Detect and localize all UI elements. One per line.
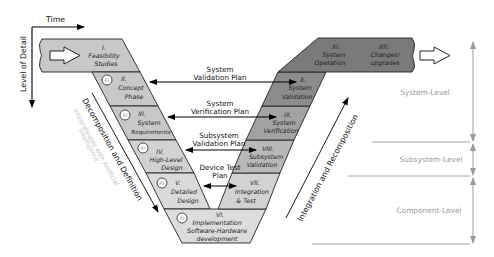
svg-text:System: System [272, 119, 295, 127]
v-model-diagram: Time Level of Detail I. Feasibility Stud… [0, 0, 494, 257]
svg-text:development: development [197, 235, 238, 243]
svg-text:AI: AI [141, 145, 146, 151]
svg-text:Validation: Validation [282, 93, 313, 100]
svg-text:XI.: XI. [331, 43, 340, 50]
svg-text:Feasibility: Feasibility [88, 52, 120, 60]
phase-5-detailed-design: AI V. Detailed Design [146, 173, 210, 209]
svg-text:Design: Design [177, 197, 198, 205]
svg-text:Design: Design [161, 164, 182, 172]
svg-text:Requirements: Requirements [131, 129, 170, 136]
svg-text:IX.: IX. [284, 111, 292, 118]
component-level-label: Component-Level [396, 206, 461, 215]
svg-text:VI.: VI. [216, 211, 224, 218]
phase-6-implementation: AI VI. Implementation Software-Hardware … [164, 209, 266, 243]
subsystem-level-label: Subsystem-Level [400, 155, 463, 164]
svg-text:Integration: Integration [235, 188, 269, 196]
svg-text:X.: X. [299, 76, 306, 83]
phase-1-feasibility: I. Feasibility Studies [39, 39, 140, 72]
svg-text:VII.: VII. [250, 179, 260, 186]
svg-text:System: System [288, 84, 311, 92]
svg-text:Verification: Verification [264, 127, 299, 134]
integration-label: Integration and Recomposition [296, 113, 360, 223]
svg-text:II.: II. [121, 75, 127, 82]
svg-text:Validation: Validation [247, 161, 278, 168]
svg-text:V.: V. [175, 179, 181, 186]
svg-text:Plan: Plan [212, 171, 227, 180]
level-of-detail-axis: Level of Detail [19, 27, 32, 107]
phase-3-system-requirements: AI III. System Requirements [110, 106, 176, 140]
svg-text:Validation Plan: Validation Plan [193, 73, 246, 82]
svg-text:VIII.: VIII. [262, 145, 274, 152]
level-of-detail-label: Level of Detail [19, 36, 28, 92]
svg-text:& Test: & Test [236, 197, 256, 204]
phase-4-high-level-design: AI IV. High-Level Design [128, 140, 194, 173]
svg-text:Concept: Concept [118, 84, 144, 92]
svg-text:High-Level: High-Level [150, 156, 183, 164]
plan-subsystem-validation: Subsystem Validation Plan [186, 131, 256, 150]
phase-9-system-verification: IX. System Verification [246, 106, 310, 140]
svg-text:Subsystem: Subsystem [249, 153, 283, 161]
svg-text:Changes/: Changes/ [371, 51, 401, 59]
time-label: Time [45, 15, 65, 24]
svg-text:AI: AI [160, 180, 165, 186]
time-axis: Time [32, 15, 84, 27]
svg-text:Phase: Phase [125, 93, 144, 100]
svg-text:Detailed: Detailed [171, 188, 197, 195]
phase-11-12-operation-upgrades: XI. System Operation XII. Changes/ upgra… [278, 38, 450, 72]
svg-text:upgrades: upgrades [370, 59, 400, 67]
svg-text:Studies: Studies [95, 60, 119, 67]
svg-text:IV.: IV. [156, 148, 163, 155]
svg-text:AI: AI [180, 215, 185, 221]
exit-arrow-icon [420, 47, 450, 64]
svg-text:AI: AI [123, 112, 128, 118]
system-level-label: System-Level [400, 88, 450, 97]
svg-text:Validation Plan: Validation Plan [192, 139, 245, 148]
svg-text:Software-Hardware: Software-Hardware [187, 227, 247, 234]
svg-text:XII.: XII. [378, 43, 389, 50]
svg-text:System: System [137, 119, 160, 127]
phase-2-concept: AI II. Concept Phase [92, 72, 158, 106]
phase-10-system-validation: X. System Validation [262, 72, 326, 106]
svg-text:AI: AI [105, 77, 110, 83]
svg-text:III.: III. [138, 110, 145, 117]
svg-text:Operation: Operation [315, 59, 346, 67]
svg-text:Implementation: Implementation [192, 219, 241, 227]
svg-text:Verification Plan: Verification Plan [191, 107, 249, 116]
svg-text:I.: I. [102, 44, 106, 51]
svg-text:System: System [322, 51, 345, 59]
